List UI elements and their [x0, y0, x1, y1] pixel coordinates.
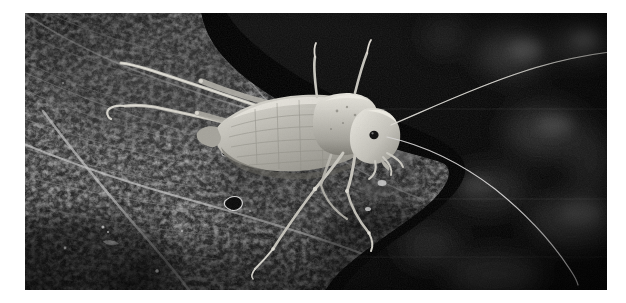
photo-page: Black and white macro photograph of a ka… [0, 0, 626, 303]
vignette [25, 13, 607, 290]
photograph [25, 13, 607, 290]
photo-canvas [25, 13, 607, 290]
